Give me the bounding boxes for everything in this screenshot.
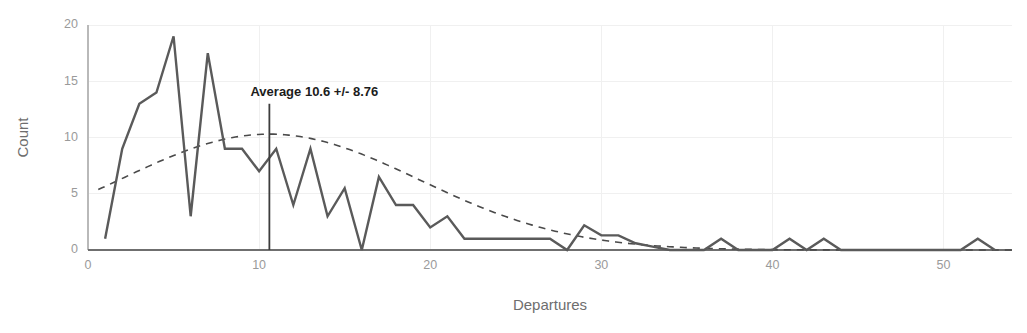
y-axis-title: Count bbox=[14, 117, 31, 158]
x-axis-tick-labels: 01020304050 bbox=[85, 258, 951, 272]
count-frequency-polygon bbox=[105, 36, 995, 250]
y-tick-label: 5 bbox=[71, 186, 78, 200]
y-tick-label: 10 bbox=[64, 130, 78, 144]
chart-container: 05101520 01020304050 Average 10.6 +/- 8.… bbox=[0, 0, 1027, 333]
x-tick-label: 0 bbox=[85, 258, 92, 272]
normal-fit-curve bbox=[98, 134, 1012, 250]
chart-plot-area: 05101520 01020304050 Average 10.6 +/- 8.… bbox=[0, 0, 1027, 333]
x-tick-label: 40 bbox=[765, 258, 779, 272]
x-tick-label: 10 bbox=[252, 258, 266, 272]
y-tick-label: 15 bbox=[64, 74, 78, 88]
x-tick-label: 20 bbox=[423, 258, 437, 272]
y-axis-tick-labels: 05101520 bbox=[64, 17, 78, 256]
average-annotation-label: Average 10.6 +/- 8.76 bbox=[250, 84, 378, 99]
gridlines bbox=[88, 25, 1012, 250]
x-tick-label: 30 bbox=[594, 258, 608, 272]
y-tick-label: 20 bbox=[64, 17, 78, 31]
y-tick-label: 0 bbox=[71, 242, 78, 256]
x-axis-title: Departures bbox=[513, 296, 587, 313]
x-tick-label: 50 bbox=[937, 258, 951, 272]
